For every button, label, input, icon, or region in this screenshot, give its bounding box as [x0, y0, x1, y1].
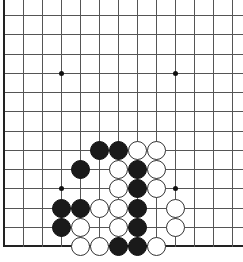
grid-line-horizontal	[4, 34, 243, 35]
black-stone	[52, 218, 71, 237]
grid-line-horizontal	[4, 54, 243, 55]
white-stone	[90, 237, 109, 256]
black-stone	[128, 199, 147, 218]
white-stone	[109, 199, 128, 218]
black-stone	[128, 237, 147, 256]
grid-line-horizontal	[4, 131, 243, 132]
black-stone	[71, 199, 90, 218]
black-stone	[128, 160, 147, 179]
white-stone	[147, 237, 166, 256]
grid-line-vertical	[232, 0, 233, 247]
go-board[interactable]	[0, 0, 243, 262]
white-stone	[71, 237, 90, 256]
black-stone	[128, 218, 147, 237]
grid-line-vertical	[156, 0, 157, 247]
white-stone	[166, 218, 185, 237]
white-stone	[109, 160, 128, 179]
black-stone	[109, 237, 128, 256]
star-point	[173, 186, 178, 191]
grid-line-vertical	[194, 0, 195, 247]
grid-line-horizontal	[4, 73, 243, 74]
white-stone	[147, 141, 166, 160]
black-stone	[52, 199, 71, 218]
grid-line-vertical	[213, 0, 214, 247]
white-stone	[166, 199, 185, 218]
grid-line-vertical	[42, 0, 43, 247]
black-stone	[128, 179, 147, 198]
black-stone	[90, 141, 109, 160]
grid-line-vertical	[23, 0, 24, 247]
star-point	[173, 71, 178, 76]
black-stone	[109, 141, 128, 160]
white-stone	[109, 218, 128, 237]
white-stone	[109, 179, 128, 198]
white-stone	[147, 160, 166, 179]
grid-line-horizontal	[4, 92, 243, 93]
star-point	[59, 71, 64, 76]
board-edge-left	[3, 0, 5, 247]
white-stone	[71, 218, 90, 237]
grid-line-horizontal	[4, 15, 243, 16]
grid-line-horizontal	[4, 111, 243, 112]
white-stone	[147, 179, 166, 198]
black-stone	[71, 160, 90, 179]
star-point	[59, 186, 64, 191]
white-stone	[128, 141, 147, 160]
white-stone	[90, 199, 109, 218]
